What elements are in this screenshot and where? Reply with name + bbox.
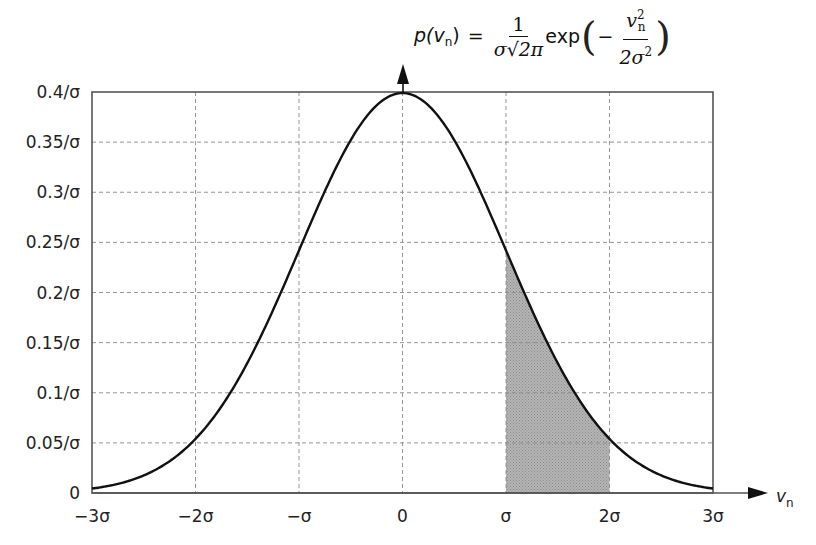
y-tick-label: 0.2/σ (36, 283, 80, 303)
y-tick-label: 0.05/σ (26, 433, 81, 453)
x-tick-label: −σ (286, 506, 311, 526)
y-tick-label: 0.15/σ (26, 333, 81, 353)
x-tick-label: 2σ (599, 506, 621, 526)
formula-exponent: v2n 2σ2 (620, 4, 653, 68)
x-tick-label: σ (501, 506, 512, 526)
arrow-right-icon (748, 487, 768, 499)
y-tick-label: 0.25/σ (26, 232, 81, 252)
x-tick-label: −3σ (74, 506, 110, 526)
y-tick-label: 0 (69, 483, 80, 503)
x-tick-labels: −3σ−2σ−σ0σ2σ3σ (74, 506, 724, 526)
formula-equals: = (468, 25, 484, 47)
y-tick-label: 0.35/σ (26, 132, 81, 152)
formula-normalization: 1 σ√2π (494, 13, 544, 60)
formula-paren-open: ( (581, 16, 597, 56)
x-tick-label: 0 (397, 506, 408, 526)
y-axis-arrow (397, 64, 409, 92)
y-tick-label: 0.4/σ (36, 82, 80, 102)
y-tick-label: 0.1/σ (36, 383, 80, 403)
pdf-formula: p(vn) = 1 σ√2π exp ( − v2n 2σ2 ) (414, 10, 672, 62)
formula-minus: − (598, 25, 614, 47)
formula-lhs: p(vn) (414, 24, 460, 49)
grid-lines (92, 92, 713, 493)
x-axis-label: vn (776, 486, 794, 510)
y-tick-label: 0.3/σ (36, 182, 80, 202)
formula-paren-close: ) (655, 16, 671, 56)
x-tick-label: −2σ (178, 506, 214, 526)
formula-exp: exp (545, 25, 580, 47)
x-tick-label: 3σ (702, 506, 724, 526)
gaussian-pdf-chart: −3σ−2σ−σ0σ2σ3σ 00.05/σ0.1/σ0.15/σ0.2/σ0.… (0, 0, 816, 545)
arrow-up-icon (397, 64, 409, 84)
x-axis-arrow (92, 487, 768, 499)
y-tick-labels: 00.05/σ0.1/σ0.15/σ0.2/σ0.25/σ0.3/σ0.35/σ… (26, 82, 81, 503)
